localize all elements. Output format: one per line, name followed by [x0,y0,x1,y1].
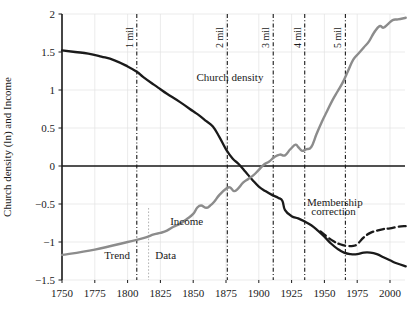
y-tick-label: −0.5 [35,198,55,210]
line-chart: 1 mil2 mil3 mil4 mil5 mil 17501775180018… [0,0,410,314]
marker-label-5-mil: 5 mil [332,27,343,48]
data-series [62,18,406,267]
x-tick-label: 1900 [248,287,271,299]
axes [59,14,406,283]
y-tick-label: 0 [50,160,56,172]
y-tick-label: 0.5 [41,122,55,134]
marker-label-1-mil: 1 mil [124,27,135,48]
series-line-income [62,18,406,255]
marker-label-4-mil: 4 mil [292,27,303,48]
series-line-membership-correction [320,226,405,246]
x-tick-label: 1800 [117,287,140,299]
marker-label-3-mil: 3 mil [260,27,271,48]
membership-correction-line2: correction [311,205,356,217]
y-tick-label: −1 [43,236,55,248]
x-tick-label: 1925 [281,287,304,299]
x-tick-label: 1825 [149,287,172,299]
x-tick-label: 1750 [51,287,74,299]
data-label: Data [155,249,176,261]
church-density-label: Church density [196,71,263,83]
chart-figure: 1 mil2 mil3 mil4 mil5 mil 17501775180018… [0,0,410,314]
y-axis-title-text: Church density (ln) and Income [1,77,14,217]
x-tick-label: 1875 [215,287,238,299]
y-axis-title: Church density (ln) and Income [1,77,14,217]
y-tick-label: −1.5 [35,274,55,286]
marker-label-2-mil: 2 mil [214,27,225,48]
grid-lines [62,14,405,280]
x-tick-label: 2000 [379,287,402,299]
x-tick-label: 1775 [84,287,107,299]
trend-label: Trend [104,249,130,261]
income-label: Income [170,215,203,227]
x-tick-label: 1975 [346,287,369,299]
y-tick-label: 2 [50,8,56,20]
y-tick-label: 1 [50,84,56,96]
x-tick-label: 1950 [313,287,336,299]
y-tick-label: 1.5 [41,46,55,58]
x-tick-label: 1850 [182,287,205,299]
